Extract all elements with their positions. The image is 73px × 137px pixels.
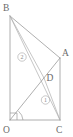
vertex-label-C: C [56, 125, 62, 135]
angle-badge-1-label: 1 [44, 97, 47, 103]
segment-BC [10, 16, 60, 120]
angle-badge-2-label: 2 [21, 54, 24, 60]
figure-canvas: 2 1 B A D O C [0, 0, 73, 137]
segment-BD [10, 16, 44, 78]
geometry-figure: 2 1 B A D O C [0, 0, 73, 137]
segment-BA [10, 16, 60, 58]
vertex-label-A: A [62, 48, 69, 58]
vertex-label-B: B [3, 3, 9, 13]
vertex-label-D: D [47, 73, 54, 83]
vertex-label-O: O [3, 125, 10, 135]
angle-arc-at-O [19, 111, 24, 120]
